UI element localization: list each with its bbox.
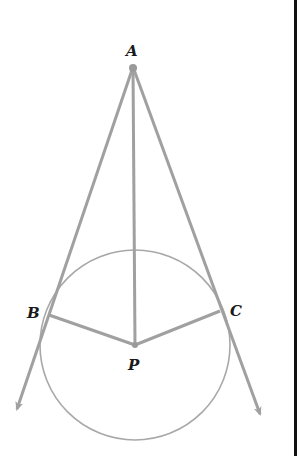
label-b: B bbox=[27, 304, 40, 322]
ray-ab bbox=[17, 67, 133, 409]
point-a bbox=[129, 64, 137, 72]
ray-ac bbox=[133, 67, 260, 414]
label-p: P bbox=[128, 356, 139, 374]
point-p bbox=[132, 342, 138, 348]
radius-pb bbox=[49, 315, 135, 345]
tangent-lines-diagram: A B C P bbox=[0, 0, 300, 469]
diagram-canvas bbox=[0, 0, 300, 469]
label-c: C bbox=[230, 302, 242, 320]
radius-pc bbox=[135, 311, 220, 345]
label-a: A bbox=[126, 42, 138, 60]
segment-ap bbox=[133, 67, 135, 345]
right-border-line bbox=[294, 0, 297, 456]
